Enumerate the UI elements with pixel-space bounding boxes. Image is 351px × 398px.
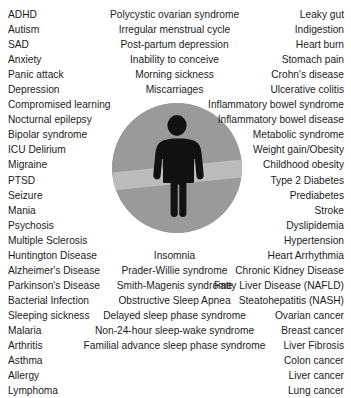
condition-item: ICU Delirium	[8, 142, 111, 157]
condition-item: Compromised learning	[8, 97, 111, 112]
condition-item: Ulcerative colitis	[208, 82, 344, 97]
condition-item: Ovarian cancer	[208, 308, 344, 323]
condition-item: Leaky gut	[208, 7, 344, 22]
condition-item: Bipolar syndrome	[8, 127, 111, 142]
condition-item: Type 2 Diabetes	[208, 173, 344, 188]
condition-list-right: Leaky gutIndigestionHeart burnStomach pa…	[208, 7, 344, 398]
condition-item: Stomach pain	[208, 52, 344, 67]
condition-item: Weight gain/Obesity	[208, 142, 344, 157]
condition-item: Colon cancer	[208, 353, 344, 368]
condition-item: Indigestion	[208, 22, 344, 37]
condition-item: Seizure	[8, 188, 111, 203]
condition-item: Asthma	[8, 353, 111, 368]
condition-item: Dyslipidemia	[208, 218, 344, 233]
condition-item: Steatohepatitis (NASH)	[208, 293, 344, 308]
condition-item: Hypertension	[208, 233, 344, 248]
condition-item: Heart Arrhythmia	[208, 248, 344, 263]
condition-item: Metabolic syndrome	[208, 127, 344, 142]
condition-item: Inflammatory bowel syndrome	[208, 97, 344, 112]
condition-item: Fatty Liver Disease (NAFLD)	[208, 278, 344, 293]
condition-item: Multiple Sclerosis	[8, 233, 111, 248]
condition-item: Prediabetes	[208, 188, 344, 203]
condition-item: Nocturnal epilepsy	[8, 112, 111, 127]
condition-item: Breast cancer	[208, 323, 344, 338]
condition-item: Liver cancer	[208, 368, 344, 383]
condition-item: Liver Fibrosis	[208, 338, 344, 353]
condition-item: Crohn's disease	[208, 67, 344, 82]
condition-item: PTSD	[8, 173, 111, 188]
condition-item: Inflammatory bowel disease	[208, 112, 344, 127]
condition-item: Psychosis	[8, 218, 111, 233]
condition-item: Stroke	[208, 203, 344, 218]
condition-item: Migraine	[8, 157, 111, 172]
condition-item: Heart burn	[208, 37, 344, 52]
condition-item: Chronic Kidney Disease	[208, 263, 344, 278]
condition-item: Childhood obesity	[208, 157, 344, 172]
condition-item: Lymphoma	[8, 383, 111, 398]
condition-item: Allergy	[8, 368, 111, 383]
condition-item: Lung cancer	[208, 383, 344, 398]
condition-item: Mania	[8, 203, 111, 218]
